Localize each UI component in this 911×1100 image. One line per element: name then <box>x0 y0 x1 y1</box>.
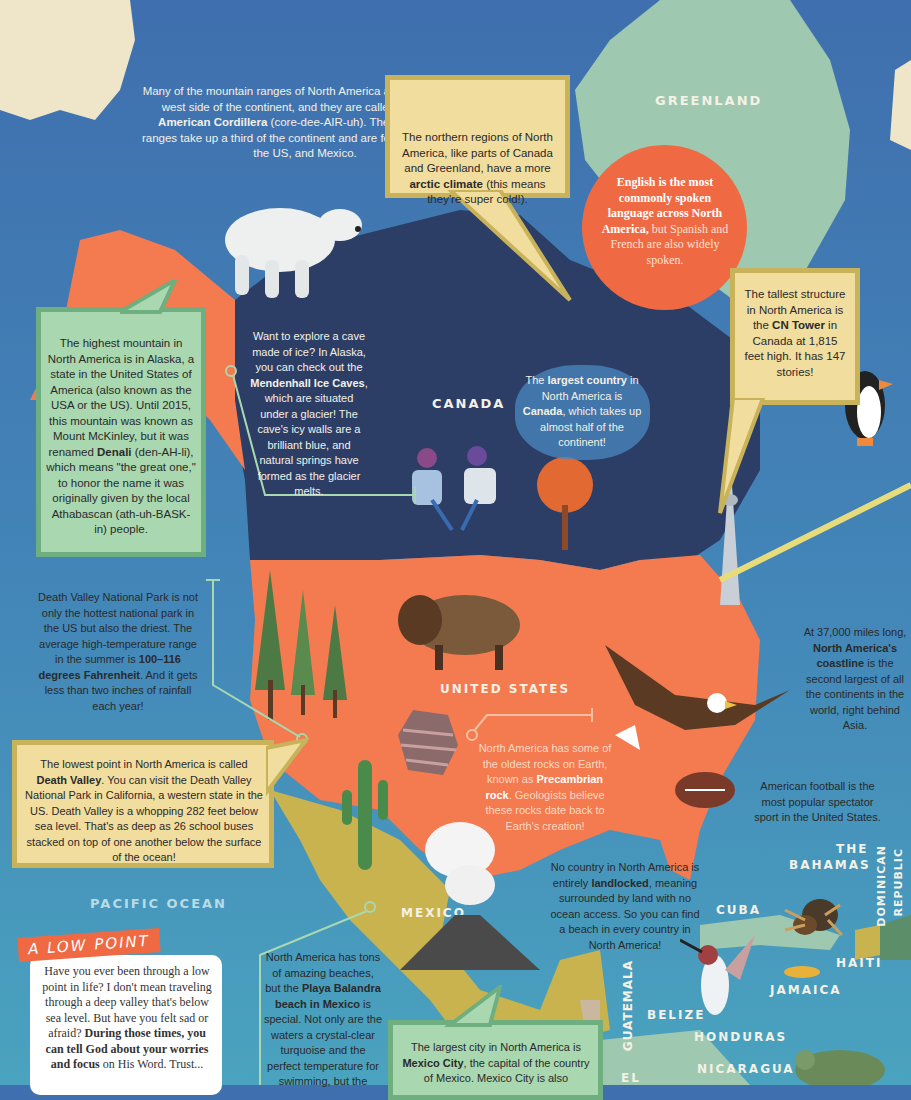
callout-pointer-arctic <box>440 190 580 310</box>
fact-english-language: English is the most commonly spoken lang… <box>600 175 730 268</box>
label-haiti: HAITI <box>836 956 882 970</box>
label-el-salvador: EL <box>621 1071 641 1085</box>
fact-cn-tower: The tallest structure in North America i… <box>742 287 848 380</box>
label-dominican-republic-2: REPUBLIC <box>892 848 905 917</box>
bald-eagle-icon <box>595 635 795 755</box>
precambrian-rock-icon <box>398 710 460 780</box>
tarantula-icon <box>780 890 850 950</box>
label-cuba: CUBA <box>716 903 761 917</box>
label-nicaragua: NICARAGUA <box>697 1062 795 1076</box>
fact-mexico-city: The largest city in North America is Mex… <box>400 1040 592 1087</box>
polar-bear-icon <box>210 185 370 305</box>
jamaica-land <box>784 966 820 978</box>
label-jamaica: JAMAICA <box>770 983 842 997</box>
callout-pointer-mexico-city <box>430 985 510 1030</box>
callout-pointer-coastline <box>700 480 911 590</box>
football-icon <box>675 770 735 810</box>
haiti-land <box>855 925 880 960</box>
label-pacific-ocean: PACIFIC OCEAN <box>90 896 227 911</box>
fact-largest-country: The largest country in North America is … <box>522 373 642 451</box>
fact-american-football: American football is the most popular sp… <box>750 779 885 826</box>
volcano-icon <box>400 820 550 980</box>
label-greenland: GREENLAND <box>655 93 762 108</box>
fact-ice-caves: Want to explore a cave made of ice? In A… <box>250 329 368 500</box>
cactus-icon <box>340 760 390 870</box>
bison-icon <box>395 575 535 675</box>
callout-pointer-denali <box>120 280 180 320</box>
fact-denali: The highest mountain in North America is… <box>46 336 196 538</box>
callout-pointer-lowest-point <box>266 738 311 808</box>
low-point-text: Have you ever been through a low point i… <box>38 964 216 1073</box>
label-dominican-republic-1: DOMINICAN <box>875 845 888 927</box>
fact-coastline: At 37,000 miles long, North America's co… <box>800 625 910 734</box>
fact-arctic-climate: The northern regions of North America, l… <box>400 130 555 208</box>
label-canada: CANADA <box>432 396 505 411</box>
label-united-states: UNITED STATES <box>440 682 570 696</box>
connector-line-death-valley <box>200 575 310 745</box>
label-guatemala: GUATEMALA <box>621 960 635 1051</box>
fact-playa-balandra: North America has tons of amazing beache… <box>264 950 382 1090</box>
label-the-bahamas-1: THE <box>836 842 868 856</box>
connector-line-precambrian <box>462 705 602 745</box>
fact-precambrian-rock: North America has some of the oldest roc… <box>475 741 615 834</box>
iguana-icon <box>790 1040 911 1085</box>
fact-lowest-point: The lowest point in North America is cal… <box>24 757 264 866</box>
maple-tree-icon <box>535 450 595 555</box>
fact-landlocked: No country in North America is entirely … <box>550 860 700 953</box>
label-the-bahamas-2: BAHAMAS <box>789 858 871 872</box>
fact-death-valley-park: Death Valley National Park is not only t… <box>38 590 198 714</box>
